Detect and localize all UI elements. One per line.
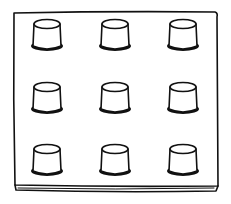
peg-top bbox=[34, 145, 60, 154]
peg-top bbox=[102, 145, 128, 154]
peg-top bbox=[34, 83, 60, 92]
peg-r2-c2 bbox=[99, 83, 131, 115]
peg-r1-c3 bbox=[167, 20, 199, 52]
peg-r1-c2 bbox=[99, 20, 131, 52]
peg-top bbox=[102, 20, 128, 29]
peg-top bbox=[170, 145, 196, 154]
peg-top bbox=[170, 83, 196, 92]
peg-top bbox=[34, 20, 60, 29]
board-edge-inner-line bbox=[18, 188, 214, 189]
peg-r2-c1 bbox=[31, 83, 63, 115]
peg-r2-c3 bbox=[167, 83, 199, 115]
peg-r3-c3 bbox=[167, 145, 199, 177]
peg-top bbox=[170, 20, 196, 29]
peg-r3-c1 bbox=[31, 145, 63, 177]
peg-r1-c1 bbox=[31, 20, 63, 52]
peg-top bbox=[102, 83, 128, 92]
peg-r3-c2 bbox=[99, 145, 131, 177]
pegboard-illustration bbox=[0, 0, 231, 204]
peg-grid bbox=[31, 20, 199, 177]
